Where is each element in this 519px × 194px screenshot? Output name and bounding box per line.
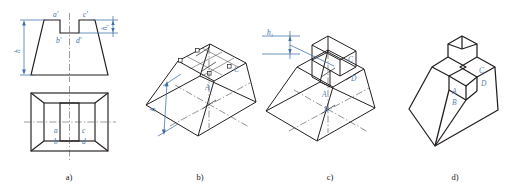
panel-caption-c: c) [327, 172, 334, 182]
point-label-c-prime: c′ [83, 10, 88, 19]
point-label-b: b [54, 137, 58, 146]
point-label-A-panel-c: A [321, 90, 327, 99]
panel-caption-b: b) [196, 172, 203, 182]
dimension-label-h-panel-a: h [13, 49, 22, 53]
point-label-b-prime: b′ [56, 36, 62, 45]
point-label-B-panel-c: B [324, 105, 329, 114]
node-b-right [228, 65, 232, 69]
point-label-A-panel-b: A [204, 83, 210, 92]
point-label-A-panel-d: A [451, 87, 457, 96]
point-label-a-prime: a′ [53, 10, 59, 19]
point-label-d: d [82, 137, 86, 146]
point-label-d-prime: d′ [76, 36, 82, 45]
technical-drawing-figure: h h1 a′ c′ b′ d′ a [0, 0, 519, 194]
node-b-left [179, 59, 183, 63]
node-b-top [196, 49, 200, 53]
panel-caption-d: d) [451, 172, 458, 182]
panel-caption-a: a) [66, 172, 73, 182]
point-label-B-panel-d: B [452, 98, 457, 107]
point-label-D-panel-c: D [350, 74, 357, 83]
figure-background [0, 0, 519, 194]
point-label-a: a [54, 126, 58, 135]
point-label-D-panel-d: D [480, 79, 487, 88]
